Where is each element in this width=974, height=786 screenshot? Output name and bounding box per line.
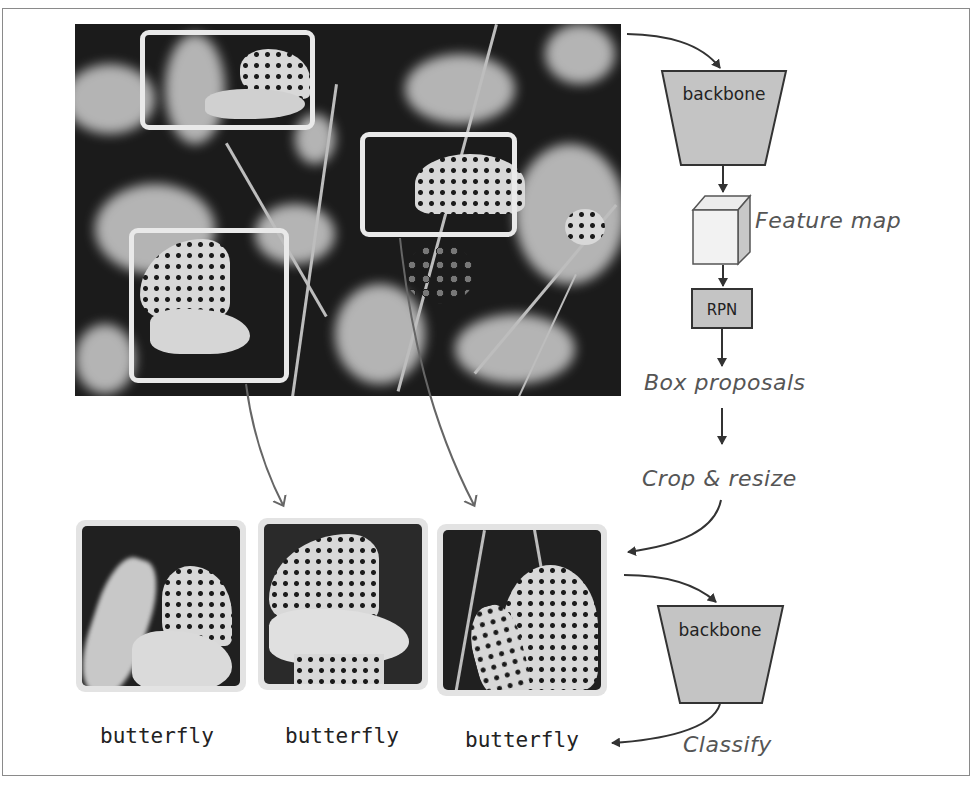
crops-to-backbone-arrow [624,575,716,602]
feature-map-cube-icon [693,196,750,264]
rpn-box: RPN [692,289,752,328]
rpn-label: RPN [707,301,738,319]
backbone-stage2: backbone [658,606,783,703]
image-to-backbone-arrow [627,34,720,68]
pipeline-diagram: backbone RPN backbone [0,0,974,786]
backbone-stage1: backbone [662,71,786,165]
box-to-crop-arrow-2 [400,238,474,505]
backbone-stage2-label: backbone [679,620,762,640]
crop-to-images-arrow [628,500,721,552]
classify-arrow [612,704,720,743]
backbone-stage1-label: backbone [683,84,766,104]
box-to-crop-arrow-1 [246,384,283,505]
